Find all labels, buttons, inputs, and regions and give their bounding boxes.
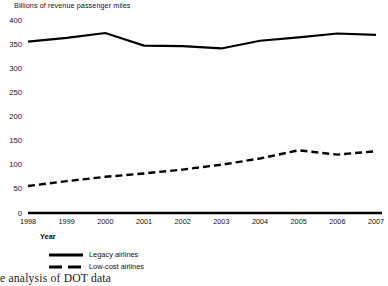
y-tick-100: 100 [0, 160, 22, 169]
x-tick-2007: 2007 [363, 217, 388, 226]
legend-label-legacy-airlines: Legacy airlines [89, 250, 138, 260]
x-tick-1999: 1999 [54, 217, 80, 226]
y-tick-400: 400 [0, 16, 22, 25]
chart-plot-area [0, 0, 388, 286]
x-tick-2004: 2004 [247, 217, 273, 226]
legend-label-low-cost-airlines: Low-cost airlines [89, 262, 144, 272]
y-tick-300: 300 [0, 64, 22, 73]
chart-legend: Legacy airlines Low-cost airlines [49, 249, 144, 273]
x-tick-2005: 2005 [286, 217, 312, 226]
series-group [28, 33, 376, 186]
legend-item-legacy-airlines: Legacy airlines [49, 249, 144, 261]
y-tick-350: 350 [0, 40, 22, 49]
legend-swatch-dashed-icon [49, 262, 83, 272]
y-tick-200: 200 [0, 112, 22, 121]
y-tick-150: 150 [0, 136, 22, 145]
x-tick-2000: 2000 [92, 217, 118, 226]
series-line-low-cost [28, 150, 376, 186]
source-note: e analysis of DOT data [0, 272, 111, 285]
x-tick-2001: 2001 [131, 217, 157, 226]
x-tick-2003: 2003 [208, 217, 234, 226]
legend-swatch-solid-icon [49, 250, 83, 260]
series-line-legacy [28, 33, 376, 48]
x-tick-1998: 1998 [15, 217, 41, 226]
y-tick-50: 50 [0, 184, 22, 193]
x-axis-title: Year [40, 232, 56, 241]
chart-figure: Billions of revenue passenger miles 0501… [0, 0, 388, 286]
x-tick-2006: 2006 [324, 217, 350, 226]
x-tick-2002: 2002 [170, 217, 196, 226]
y-tick-250: 250 [0, 88, 22, 97]
